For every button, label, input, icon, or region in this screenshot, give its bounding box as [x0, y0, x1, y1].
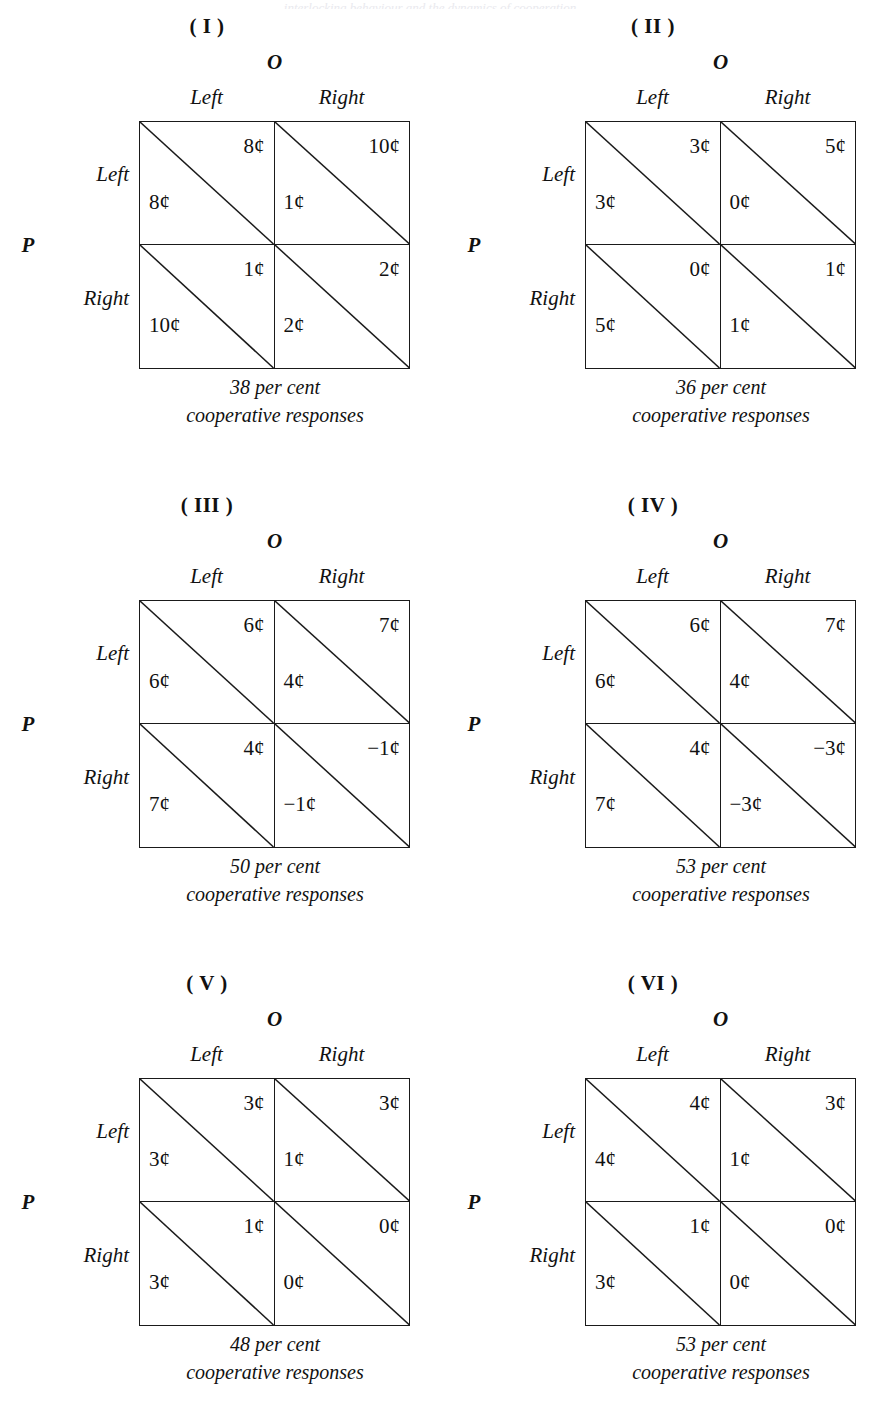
p-payoff-value: −1¢ [284, 792, 317, 817]
matrix-box: 4¢ 4¢ 3¢ 1¢ 1¢ 3¢ 0¢ 0¢ [585, 1078, 856, 1326]
payoff-matrix-panel-vi: ( VI ) O Left Right P Left Right 4¢ 4¢ 3… [446, 957, 873, 1412]
p-payoff-value: 0¢ [730, 190, 751, 215]
caption-line-2: cooperative responses [60, 1359, 490, 1387]
o-payoff-value: 4¢ [244, 736, 265, 761]
p-payoff-value: 1¢ [730, 313, 751, 338]
p-payoff-value: 3¢ [149, 1147, 170, 1172]
row-header-left: Left [24, 641, 129, 666]
p-payoff-value: 4¢ [730, 669, 751, 694]
panel-caption: 36 per cent cooperative responses [506, 374, 873, 429]
o-payoff-value: 7¢ [825, 613, 846, 638]
o-payoff-value: 3¢ [825, 1091, 846, 1116]
row-player-label: P [454, 233, 494, 258]
row-header-left: Left [470, 162, 575, 187]
row-header-right: Right [24, 1243, 129, 1268]
o-payoff-value: 6¢ [244, 613, 265, 638]
row-header-left: Left [24, 162, 129, 187]
caption-line-1: 53 per cent [506, 853, 873, 881]
caption-line-1: 48 per cent [60, 1331, 490, 1359]
payoff-cell-left-left: 4¢ 4¢ [586, 1079, 721, 1202]
payoff-cell-right-left: 1¢ 3¢ [140, 1202, 275, 1325]
matrix-box: 3¢ 3¢ 5¢ 0¢ 0¢ 5¢ 1¢ 1¢ [585, 121, 856, 369]
o-payoff-value: 5¢ [825, 134, 846, 159]
column-header-right: Right [720, 564, 855, 589]
p-payoff-value: 2¢ [284, 313, 305, 338]
column-header-left: Left [139, 85, 274, 110]
panel-title: ( II ) [585, 14, 721, 39]
payoff-cell-left-left: 6¢ 6¢ [586, 601, 721, 724]
payoff-cell-left-right: 7¢ 4¢ [275, 601, 410, 724]
column-header-right: Right [274, 564, 409, 589]
payoff-cell-right-left: 1¢ 3¢ [586, 1202, 721, 1325]
payoff-cell-left-right: 5¢ 0¢ [721, 122, 856, 245]
column-header-right: Right [274, 1042, 409, 1067]
row-player-label: P [8, 233, 48, 258]
p-payoff-value: 3¢ [595, 1270, 616, 1295]
payoff-cell-right-right: −1¢ −1¢ [275, 724, 410, 847]
payoff-cell-left-left: 8¢ 8¢ [140, 122, 275, 245]
matrix-box: 3¢ 3¢ 3¢ 1¢ 1¢ 3¢ 0¢ 0¢ [139, 1078, 410, 1326]
payoff-matrix-panel-iv: ( IV ) O Left Right P Left Right 6¢ 6¢ 7… [446, 479, 873, 949]
payoff-cell-left-left: 3¢ 3¢ [586, 122, 721, 245]
panel-title: ( IV ) [585, 493, 721, 518]
caption-line-2: cooperative responses [60, 402, 490, 430]
column-header-left: Left [585, 1042, 720, 1067]
column-player-label: O [139, 50, 410, 75]
p-payoff-value: 6¢ [595, 669, 616, 694]
panel-title: ( V ) [139, 971, 275, 996]
o-payoff-value: 0¢ [690, 257, 711, 282]
p-payoff-value: 6¢ [149, 669, 170, 694]
row-player-label: P [454, 712, 494, 737]
panel-caption: 48 per cent cooperative responses [60, 1331, 490, 1386]
p-payoff-value: 0¢ [730, 1270, 751, 1295]
o-payoff-value: 1¢ [825, 257, 846, 282]
caption-line-2: cooperative responses [60, 881, 490, 909]
caption-line-1: 53 per cent [506, 1331, 873, 1359]
column-header-right: Right [274, 85, 409, 110]
row-player-label: P [8, 1190, 48, 1215]
caption-line-1: 50 per cent [60, 853, 490, 881]
p-payoff-value: 3¢ [595, 190, 616, 215]
row-header-left: Left [24, 1119, 129, 1144]
o-payoff-value: 10¢ [369, 134, 401, 159]
column-player-label: O [139, 529, 410, 554]
payoff-cell-right-left: 4¢ 7¢ [140, 724, 275, 847]
panel-caption: 38 per cent cooperative responses [60, 374, 490, 429]
p-payoff-value: 5¢ [595, 313, 616, 338]
payoff-matrix-panel-v: ( V ) O Left Right P Left Right 3¢ 3¢ 3¢… [0, 957, 436, 1412]
payoff-cell-left-right: 3¢ 1¢ [721, 1079, 856, 1202]
o-payoff-value: −3¢ [813, 736, 846, 761]
p-payoff-value: 8¢ [149, 190, 170, 215]
o-payoff-value: 4¢ [690, 736, 711, 761]
o-payoff-value: 4¢ [690, 1091, 711, 1116]
payoff-matrix-panel-iii: ( III ) O Left Right P Left Right 6¢ 6¢ … [0, 479, 436, 949]
column-player-label: O [585, 50, 856, 75]
p-payoff-value: 4¢ [284, 669, 305, 694]
p-payoff-value: 10¢ [149, 313, 181, 338]
payoff-cell-left-left: 3¢ 3¢ [140, 1079, 275, 1202]
p-payoff-value: 0¢ [284, 1270, 305, 1295]
panel-caption: 53 per cent cooperative responses [506, 853, 873, 908]
o-payoff-value: 3¢ [244, 1091, 265, 1116]
o-payoff-value: 1¢ [690, 1214, 711, 1239]
o-payoff-value: 6¢ [690, 613, 711, 638]
p-payoff-value: 7¢ [595, 792, 616, 817]
p-payoff-value: 3¢ [149, 1270, 170, 1295]
payoff-matrix-panel-ii: ( II ) O Left Right P Left Right 3¢ 3¢ 5… [446, 0, 873, 470]
o-payoff-value: 8¢ [244, 134, 265, 159]
panel-title: ( VI ) [585, 971, 721, 996]
row-header-right: Right [470, 286, 575, 311]
o-payoff-value: 3¢ [690, 134, 711, 159]
caption-line-2: cooperative responses [506, 881, 873, 909]
caption-line-2: cooperative responses [506, 1359, 873, 1387]
row-header-right: Right [24, 765, 129, 790]
p-payoff-value: 1¢ [284, 190, 305, 215]
column-player-label: O [585, 529, 856, 554]
payoff-cell-left-right: 3¢ 1¢ [275, 1079, 410, 1202]
o-payoff-value: 0¢ [379, 1214, 400, 1239]
p-payoff-value: 1¢ [284, 1147, 305, 1172]
column-header-left: Left [139, 564, 274, 589]
row-header-left: Left [470, 1119, 575, 1144]
o-payoff-value: 1¢ [244, 1214, 265, 1239]
payoff-cell-right-left: 4¢ 7¢ [586, 724, 721, 847]
